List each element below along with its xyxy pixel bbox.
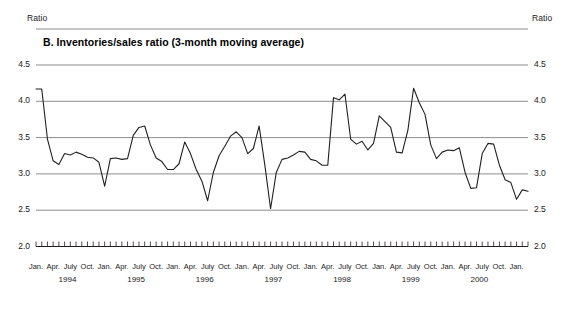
y-axis-tick-label-left: 4.0 <box>8 95 30 105</box>
x-axis-year-label: 1998 <box>333 275 351 284</box>
x-axis-month-label: July <box>201 262 214 271</box>
y-axis-tick-label-left: 3.0 <box>8 168 30 178</box>
x-axis-month-label: Oct. <box>493 262 507 271</box>
x-axis-month-label: July <box>476 262 489 271</box>
x-axis-month-label: July <box>338 262 351 271</box>
x-axis-month-label: Apr. <box>458 262 471 271</box>
x-axis-month-label: Oct. <box>424 262 438 271</box>
x-axis-month-label: Jan. <box>509 262 523 271</box>
x-axis-month-label: Oct. <box>149 262 163 271</box>
y-axis-tick-label-right: 2.5 <box>534 204 556 214</box>
y-axis-tick-label-right: 3.0 <box>534 168 556 178</box>
x-axis-year-label: 2000 <box>470 275 488 284</box>
y-axis-tick-label-left: 3.5 <box>8 132 30 142</box>
x-axis-year-label: 1997 <box>265 275 283 284</box>
x-axis-month-label: Apr. <box>46 262 59 271</box>
data-line-inventories-sales-ratio <box>36 88 528 209</box>
x-axis-month-label: Apr. <box>115 262 128 271</box>
y-axis-tick-label-left: 2.5 <box>8 204 30 214</box>
x-axis-month-label: Apr. <box>321 262 334 271</box>
x-axis-month-label: Apr. <box>390 262 403 271</box>
x-axis-month-label: July <box>64 262 77 271</box>
y-axis-tick-label-right: 2.0 <box>534 241 556 251</box>
x-axis-month-label: Jan. <box>372 262 386 271</box>
figure-panel-b: Ratio Ratio B. Inventories/sales ratio (… <box>0 0 572 309</box>
y-axis-tick-label-left: 4.5 <box>8 59 30 69</box>
x-axis-year-label: 1999 <box>402 275 420 284</box>
x-axis-year-label: 1996 <box>196 275 214 284</box>
x-axis-month-label: Jan. <box>98 262 112 271</box>
x-axis-month-label: July <box>132 262 145 271</box>
x-axis-month-label: Apr. <box>184 262 197 271</box>
x-axis-month-label: Jan. <box>235 262 249 271</box>
x-axis-year-label: 1994 <box>59 275 77 284</box>
y-axis-tick-label-right: 3.5 <box>534 132 556 142</box>
x-axis-month-label: Oct. <box>355 262 369 271</box>
x-axis-month-label: July <box>270 262 283 271</box>
x-axis-month-label: Jan. <box>304 262 318 271</box>
x-axis-month-label: Oct. <box>218 262 232 271</box>
y-axis-tick-label-right: 4.5 <box>534 59 556 69</box>
x-axis-month-label: Jan. <box>441 262 455 271</box>
x-axis-month-label: Apr. <box>252 262 265 271</box>
y-axis-tick-label-right: 4.0 <box>534 95 556 105</box>
y-axis-tick-label-left: 2.0 <box>8 241 30 251</box>
x-axis-month-label: Oct. <box>287 262 301 271</box>
x-axis-month-label: Jan. <box>166 262 180 271</box>
x-axis-month-label: Jan. <box>29 262 43 271</box>
x-axis-year-label: 1995 <box>127 275 145 284</box>
x-axis-month-label: Oct. <box>81 262 95 271</box>
x-axis-month-label: July <box>407 262 420 271</box>
